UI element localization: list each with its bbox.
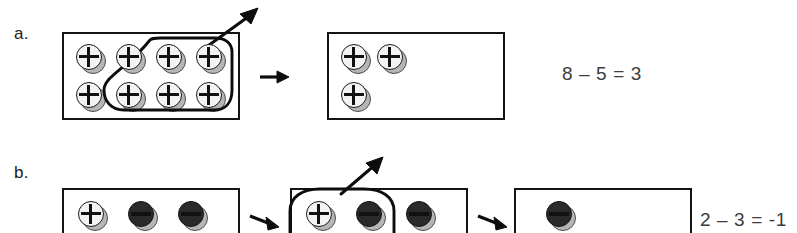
plus-icon-vertical [352, 85, 355, 105]
minus-icon-horizontal [131, 212, 151, 216]
plus-icon-vertical [352, 47, 355, 67]
chip-negative [178, 201, 208, 231]
row-b-transition-arrow-2 [478, 210, 512, 233]
chip-negative [546, 201, 576, 231]
minus-icon-horizontal [181, 212, 201, 216]
plus-icon-vertical [167, 85, 170, 105]
row-label-b: b. [14, 163, 29, 183]
minus-icon-horizontal [549, 212, 569, 216]
plus-icon-vertical [89, 204, 92, 224]
plus-icon-vertical [87, 85, 90, 105]
row-b-transition-arrow-1 [250, 210, 284, 233]
row-b-equation: 2 – 3 = -1 [700, 209, 787, 231]
cropped-header-text [30, 0, 770, 2]
plus-icon-vertical [207, 85, 210, 105]
row-label-a: a. [14, 24, 29, 44]
chip-negative [128, 201, 158, 231]
chip-positive [341, 44, 371, 74]
minus-icon-horizontal [359, 212, 379, 216]
plus-icon-vertical [207, 47, 210, 67]
plus-icon-vertical [167, 47, 170, 67]
counter-chip-subtraction-figure: a. [0, 0, 797, 233]
chip-positive [341, 82, 371, 112]
minus-icon-horizontal [409, 212, 429, 216]
plus-icon-vertical [127, 85, 130, 105]
row-b-removal-arrow [336, 152, 396, 198]
plus-icon-vertical [127, 47, 130, 67]
row-b-result-mat [514, 188, 692, 233]
plus-icon-vertical [388, 47, 391, 67]
plus-icon-vertical [87, 47, 90, 67]
row-a-transition-arrow [258, 66, 292, 88]
row-a-result-mat [327, 32, 505, 120]
chip-positive [377, 44, 407, 74]
row-a-equation: 8 – 5 = 3 [562, 63, 642, 85]
plus-icon-vertical [317, 204, 320, 224]
chip-positive [78, 201, 108, 231]
row-b-start-mat [62, 188, 240, 233]
